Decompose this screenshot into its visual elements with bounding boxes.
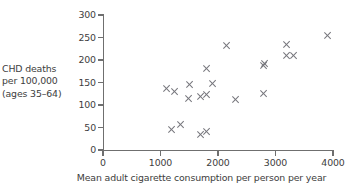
y-tick-label: 200 [68,55,96,65]
data-point-marker [184,94,193,103]
y-tick-label: 150 [68,78,96,88]
data-point-marker [261,59,270,68]
data-point-marker [203,64,212,73]
y-tick-label-text: 300 [70,10,96,19]
x-tick-label: 3000 [253,158,299,169]
y-tick-label-text: 0 [70,145,96,154]
y-axis-label-line-0: CHD deaths [2,63,68,75]
x-tick-label-text: 4000 [310,158,349,168]
y-tick-label: 300 [68,10,96,20]
x-axis-label: Mean adult cigarette consumption per per… [60,172,343,183]
y-axis-label-line-1: per 100,000 [2,75,68,87]
plot-area [103,15,333,150]
y-tick-label: 0 [68,145,96,155]
x-tick-mark [217,151,218,156]
y-axis-label-line-2: (ages 35–64) [2,88,68,100]
y-tick-label-text: 250 [70,33,96,42]
y-tick-label: 250 [68,33,96,43]
data-point-marker [185,80,194,89]
x-tick-mark [332,151,333,156]
x-tick-mark [102,151,103,156]
data-point-marker [231,95,240,104]
x-tick-label-text: 0 [80,158,126,168]
x-tick-label-text: 3000 [253,158,299,168]
y-tick-label: 50 [68,123,96,133]
data-point-marker [208,79,217,88]
y-tick-label-text: 200 [70,55,96,64]
y-axis-label: CHD deathsper 100,000(ages 35–64) [2,63,68,100]
data-point-marker [283,40,292,49]
data-point-marker [323,31,332,40]
y-tick-label-text: 150 [70,78,96,87]
data-point-marker [170,87,179,96]
x-tick-label: 2000 [195,158,241,169]
x-tick-mark [160,151,161,156]
y-tick-label: 100 [68,100,96,110]
data-point-marker [202,90,211,99]
x-tick-label: 1000 [138,158,184,169]
x-tick-label-text: 2000 [195,158,241,168]
data-point-marker [222,41,231,50]
data-point-marker [202,127,211,136]
x-tick-mark [275,151,276,156]
data-point-marker [176,120,185,129]
x-tick-label: 0 [80,158,126,169]
x-tick-label-text: 1000 [138,158,184,168]
x-tick-label: 4000 [310,158,349,169]
data-point-marker [289,51,298,60]
data-point-marker [260,89,269,98]
y-tick-label-text: 100 [70,100,96,109]
y-tick-label-text: 50 [70,123,96,132]
